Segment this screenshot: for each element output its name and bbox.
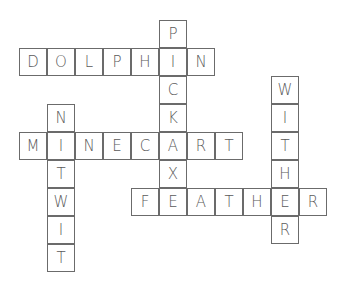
cell-letter: R <box>196 137 206 155</box>
crossword-cell[interactable]: H <box>131 48 159 76</box>
crossword-cell[interactable]: M <box>19 132 47 160</box>
crossword-cell[interactable]: E <box>271 188 299 216</box>
cell-letter: N <box>195 53 206 71</box>
cell-letter: A <box>196 193 206 211</box>
cell-letter: K <box>168 109 178 127</box>
cell-letter: I <box>171 53 175 71</box>
crossword-cell[interactable]: I <box>47 132 75 160</box>
crossword-cell[interactable]: A <box>159 132 187 160</box>
crossword-cell[interactable]: T <box>215 188 243 216</box>
cell-letter: R <box>308 193 318 211</box>
crossword-cell[interactable]: X <box>159 160 187 188</box>
cell-letter: E <box>112 137 121 155</box>
cell-letter: H <box>251 193 262 211</box>
cell-letter: E <box>280 193 289 211</box>
cell-letter: L <box>85 53 93 71</box>
cell-letter: W <box>278 81 293 99</box>
cell-letter: P <box>112 53 121 71</box>
cell-letter: I <box>59 137 63 155</box>
cell-letter: T <box>56 165 65 183</box>
cell-letter: C <box>168 81 178 99</box>
cell-letter: T <box>224 137 233 155</box>
cell-letter: C <box>140 137 150 155</box>
crossword-cell[interactable]: T <box>47 244 75 272</box>
cell-letter: I <box>283 109 287 127</box>
crossword-cell[interactable]: C <box>159 76 187 104</box>
crossword-cell[interactable]: N <box>187 48 215 76</box>
cell-letter: O <box>55 53 67 71</box>
crossword-cell[interactable]: C <box>131 132 159 160</box>
cell-letter: I <box>59 221 63 239</box>
crossword-cell[interactable]: W <box>271 76 299 104</box>
cell-letter: H <box>139 53 150 71</box>
cell-letter: N <box>83 137 94 155</box>
cell-letter: E <box>168 193 177 211</box>
crossword-cell[interactable]: W <box>47 188 75 216</box>
crossword-cell[interactable]: R <box>271 216 299 244</box>
crossword-cell[interactable]: P <box>159 20 187 48</box>
crossword-cell[interactable]: K <box>159 104 187 132</box>
crossword-cell[interactable]: N <box>75 132 103 160</box>
cell-letter: R <box>280 221 290 239</box>
crossword-cell[interactable]: N <box>47 104 75 132</box>
crossword-cell[interactable]: R <box>299 188 327 216</box>
crossword-cell[interactable]: I <box>47 216 75 244</box>
crossword-cell[interactable]: D <box>19 48 47 76</box>
crossword-cell[interactable]: F <box>131 188 159 216</box>
crossword-cell[interactable]: H <box>271 160 299 188</box>
cell-letter: T <box>224 193 233 211</box>
crossword-cell[interactable]: O <box>47 48 75 76</box>
cell-letter: M <box>27 137 40 155</box>
cell-letter: W <box>54 193 69 211</box>
crossword-cell[interactable]: R <box>187 132 215 160</box>
cell-letter: T <box>56 249 65 267</box>
cell-letter: A <box>168 137 178 155</box>
cell-letter: N <box>55 109 66 127</box>
cell-letter: F <box>141 193 150 211</box>
crossword-cell[interactable]: H <box>243 188 271 216</box>
crossword-cell[interactable]: T <box>271 132 299 160</box>
crossword-cell[interactable]: L <box>75 48 103 76</box>
crossword-cell[interactable]: E <box>103 132 131 160</box>
crossword-cell[interactable]: E <box>159 188 187 216</box>
crossword-cell[interactable]: P <box>103 48 131 76</box>
cell-letter: H <box>279 165 290 183</box>
cell-letter: X <box>168 165 178 183</box>
crossword-cell[interactable]: A <box>187 188 215 216</box>
cell-letter: D <box>27 53 39 71</box>
crossword-cell[interactable]: T <box>215 132 243 160</box>
cell-letter: T <box>280 137 289 155</box>
crossword-cell[interactable]: I <box>271 104 299 132</box>
crossword-cell[interactable]: T <box>47 160 75 188</box>
crossword-cell[interactable]: I <box>159 48 187 76</box>
cell-letter: P <box>168 25 177 43</box>
